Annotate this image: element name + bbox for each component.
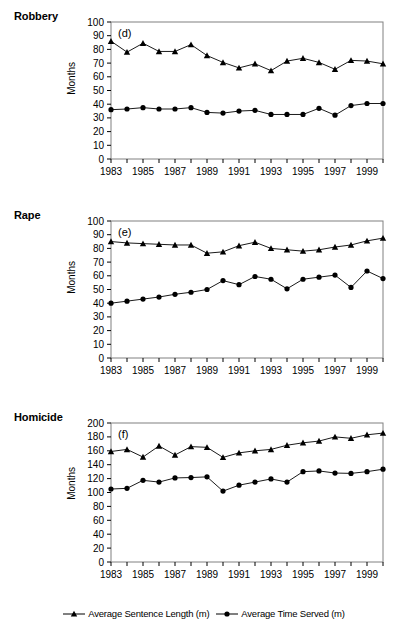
- circle-marker: [284, 479, 289, 484]
- circle-marker: [268, 476, 273, 481]
- legend-item: Average Sentence Length (m): [63, 608, 209, 619]
- circle-marker: [156, 294, 161, 299]
- y-tick-label: 0: [98, 353, 104, 364]
- y-tick-label: 120: [87, 473, 104, 484]
- chart-panel-homicide: HomicideMonths02040608010012014016018020…: [0, 405, 408, 605]
- triangle-up-marker: [140, 454, 146, 460]
- x-tick-label: 1999: [356, 166, 379, 177]
- circle-marker: [316, 275, 321, 280]
- plot-area-robbery: 0102030405060708090100198319851987198919…: [0, 4, 408, 200]
- x-tick-label: 1997: [324, 166, 347, 177]
- panel-letter-label: (f): [118, 428, 128, 440]
- y-tick-label: 30: [93, 311, 105, 322]
- circle-marker: [364, 268, 369, 273]
- x-tick-label: 1987: [164, 365, 187, 376]
- y-tick-label: 0: [98, 557, 104, 568]
- circle-marker: [220, 278, 225, 283]
- circle-marker: [108, 486, 113, 491]
- x-tick-label: 1989: [196, 365, 219, 376]
- circle-marker: [108, 301, 113, 306]
- x-tick-label: 1993: [260, 365, 283, 376]
- triangle-up-marker: [380, 235, 386, 241]
- y-tick-label: 90: [93, 229, 105, 240]
- legend-item: Average Time Served (m): [216, 608, 344, 619]
- figure-legend: Average Sentence Length (m)Average Time …: [0, 608, 408, 621]
- panel-letter-label: (e): [118, 226, 131, 238]
- x-tick-label: 1987: [164, 166, 187, 177]
- circle-marker: [316, 468, 321, 473]
- circle-marker: [236, 108, 241, 113]
- y-tick-label: 20: [93, 543, 105, 554]
- y-tick-label: 50: [93, 284, 105, 295]
- y-tick-label: 140: [87, 459, 104, 470]
- x-tick-label: 1987: [164, 569, 187, 580]
- y-tick-label: 100: [87, 216, 104, 227]
- y-tick-label: 100: [87, 17, 104, 28]
- circle-marker: [236, 282, 241, 287]
- circle-marker: [172, 106, 177, 111]
- triangle-up-marker: [220, 59, 226, 65]
- triangle-up-marker: [140, 40, 146, 46]
- circle-marker: [252, 479, 257, 484]
- circle-marker: [156, 479, 161, 484]
- y-tick-label: 160: [87, 445, 104, 456]
- triangle-up-marker: [172, 452, 178, 458]
- triangle-up-marker: [156, 443, 162, 449]
- triangle-up-marker: [204, 52, 210, 58]
- y-tick-label: 10: [93, 339, 105, 350]
- y-tick-label: 50: [93, 85, 105, 96]
- triangle-up-marker: [268, 67, 274, 73]
- x-tick-label: 1991: [228, 365, 251, 376]
- circle-marker: [332, 470, 337, 475]
- x-tick-label: 1983: [100, 365, 123, 376]
- circle-marker: [108, 107, 113, 112]
- circle-marker: [332, 113, 337, 118]
- x-tick-label: 1991: [228, 166, 251, 177]
- circle-marker: [156, 106, 161, 111]
- circle-marker: [284, 286, 289, 291]
- x-tick-label: 1989: [196, 569, 219, 580]
- plot-area-rape: 0102030405060708090100198319851987198919…: [0, 203, 408, 399]
- x-tick-label: 1999: [356, 569, 379, 580]
- circle-marker: [204, 474, 209, 479]
- triangle-up-marker: [108, 38, 114, 44]
- x-tick-label: 1985: [132, 569, 155, 580]
- x-tick-label: 1997: [324, 365, 347, 376]
- triangle-up-marker: [332, 66, 338, 72]
- circle-marker: [252, 274, 257, 279]
- x-tick-label: 1983: [100, 569, 123, 580]
- circle-marker: [332, 273, 337, 278]
- circle-marker: [204, 287, 209, 292]
- circle-marker: [348, 285, 353, 290]
- x-tick-label: 1993: [260, 569, 283, 580]
- circle-marker: [268, 112, 273, 117]
- circle-marker: [140, 105, 145, 110]
- x-tick-label: 1983: [100, 166, 123, 177]
- circle-marker: [300, 469, 305, 474]
- circle-marker: [140, 296, 145, 301]
- series-line: [111, 238, 383, 253]
- triangle-up-marker: [188, 41, 194, 47]
- chart-panel-rape: RapeMonths010203040506070809010019831985…: [0, 203, 408, 399]
- y-tick-label: 0: [98, 154, 104, 165]
- circle-marker: [252, 108, 257, 113]
- circle-marker: [216, 609, 238, 619]
- circle-marker: [172, 292, 177, 297]
- y-tick-label: 40: [93, 298, 105, 309]
- circle-marker: [124, 106, 129, 111]
- circle-marker: [348, 471, 353, 476]
- y-tick-label: 10: [93, 140, 105, 151]
- x-tick-label: 1993: [260, 166, 283, 177]
- x-tick-label: 1985: [132, 166, 155, 177]
- triangle-up-marker: [252, 239, 258, 245]
- circle-marker: [124, 486, 129, 491]
- circle-marker: [364, 469, 369, 474]
- triangle-up-marker: [300, 55, 306, 61]
- series-line: [111, 433, 383, 457]
- circle-marker: [188, 105, 193, 110]
- panel-letter-label: (d): [118, 27, 131, 39]
- x-tick-label: 1999: [356, 365, 379, 376]
- circle-marker: [300, 112, 305, 117]
- x-tick-label: 1989: [196, 166, 219, 177]
- y-tick-label: 200: [87, 418, 104, 429]
